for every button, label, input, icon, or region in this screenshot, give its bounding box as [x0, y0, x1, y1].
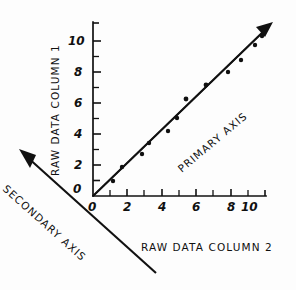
data-point [120, 165, 124, 169]
y-axis-caption: RAW DATA COLUMN 1 [50, 44, 61, 176]
y-tick-label-4: 4 [74, 128, 82, 140]
data-point [147, 141, 151, 145]
scatter-plot-figure: 10 8 6 4 2 0 0 2 4 6 8 10 RAW DATA COLUM… [0, 0, 296, 290]
x-tick-label-8: 8 [227, 201, 235, 213]
secondary-axis-arrowhead [19, 149, 36, 168]
x-axis-caption: RAW DATA COLUMN 2 [141, 242, 273, 253]
y-tick-label-10: 10 [68, 35, 85, 47]
data-point [260, 34, 264, 38]
data-point [184, 97, 189, 102]
data-point [253, 43, 257, 47]
x-tick-label-2: 2 [123, 201, 131, 213]
data-point [175, 116, 179, 120]
data-point [140, 152, 144, 156]
x-tick-label-0: 0 [88, 201, 96, 213]
x-tick-label-6: 6 [192, 201, 200, 213]
x-axis-ticks [110, 189, 248, 196]
x-tick-label-10: 10 [241, 201, 258, 213]
y-axis-ticks [93, 41, 101, 181]
x-tick-label-4: 4 [158, 201, 166, 213]
data-point [166, 129, 170, 133]
data-point [111, 179, 115, 183]
y-tick-label-6: 6 [74, 97, 82, 109]
data-point [204, 83, 209, 88]
data-point [239, 58, 243, 62]
y-tick-label-0: 0 [73, 183, 81, 195]
y-tick-label-8: 8 [74, 66, 82, 78]
data-point [226, 70, 230, 74]
y-tick-label-2: 2 [74, 159, 82, 171]
